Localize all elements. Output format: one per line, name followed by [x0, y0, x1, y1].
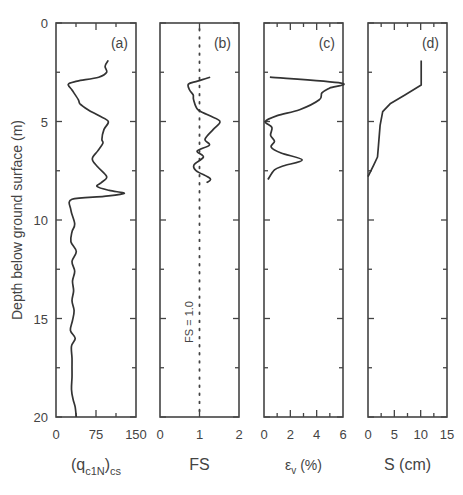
panel-label: (c) — [319, 35, 335, 51]
panel-label: (a) — [111, 35, 128, 51]
panel-label: (d) — [422, 35, 439, 51]
y-tick-label: 20 — [34, 410, 48, 425]
axes-frame — [160, 23, 239, 417]
x-tick-label: 6 — [339, 427, 346, 442]
x-tick-label: 0 — [364, 427, 371, 442]
y-tick-label: 10 — [34, 213, 48, 228]
panel-a: 075150(a)(qc1N)cs — [52, 23, 146, 477]
x-tick-label: 2 — [235, 427, 242, 442]
x-tick-label: 150 — [125, 427, 147, 442]
series-curve — [68, 60, 124, 417]
series-curve — [188, 77, 220, 182]
series-curve — [368, 60, 421, 176]
panel-d: 051015(d)S (cm) — [364, 23, 454, 473]
y-tick-label: 0 — [41, 16, 48, 31]
y-axis-label: Depth below ground surface (m) — [9, 120, 25, 320]
x-axis-label: S (cm) — [384, 456, 431, 473]
x-axis-label: FS — [189, 456, 209, 473]
x-tick-label: 0 — [52, 427, 59, 442]
panel-b: 012(b)FS = 1.0FS — [156, 23, 242, 473]
panel-c: 0246(c)εv (%) — [260, 23, 346, 476]
x-tick-label: 10 — [413, 427, 427, 442]
axes-frame — [368, 23, 447, 417]
x-tick-label: 0 — [260, 427, 267, 442]
x-tick-label: 2 — [287, 427, 294, 442]
x-tick-label: 4 — [313, 427, 320, 442]
x-tick-label: 1 — [196, 427, 203, 442]
y-tick-label: 15 — [34, 312, 48, 327]
x-axis-label: (qc1N)cs — [71, 456, 122, 477]
x-tick-label: 5 — [391, 427, 398, 442]
x-axis-label: εv (%) — [285, 457, 322, 476]
x-tick-label: 75 — [89, 427, 103, 442]
y-tick-label: 5 — [41, 115, 48, 130]
x-tick-label: 15 — [440, 427, 454, 442]
panel-label: (b) — [214, 35, 231, 51]
axes-frame — [56, 23, 136, 417]
series-curve — [265, 77, 344, 179]
x-tick-label: 0 — [156, 427, 163, 442]
fs-annotation: FS = 1.0 — [183, 301, 195, 343]
figure: 075150(a)(qc1N)cs012(b)FS = 1.0FS0246(c)… — [0, 0, 463, 495]
